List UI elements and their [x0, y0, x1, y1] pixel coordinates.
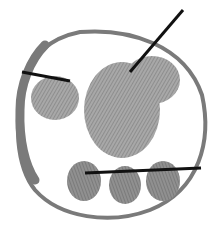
toe-pad-upper-left	[31, 76, 79, 120]
toe-pad-upper-right	[124, 56, 180, 104]
toe-pad-bottom-1	[67, 161, 101, 201]
toe-pad-bottom-3	[146, 161, 180, 201]
annotation-line-bottom	[85, 168, 201, 173]
paw-print-figure	[0, 0, 214, 233]
